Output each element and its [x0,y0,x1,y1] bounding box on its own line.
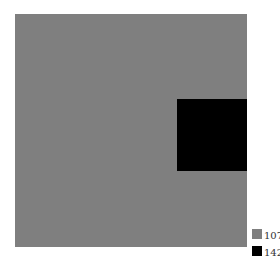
legend: 107 142 [252,229,280,258]
chart: 107 142 [0,0,280,274]
area-rect-142 [177,99,247,171]
legend-label-107: 107 [264,230,280,241]
legend-swatch-107 [252,229,262,239]
legend-label-142: 142 [264,247,280,258]
legend-swatch-142 [252,246,262,256]
